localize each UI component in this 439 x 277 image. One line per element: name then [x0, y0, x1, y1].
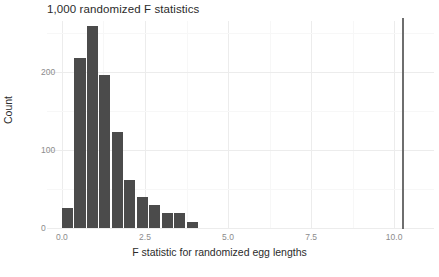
gridline-vertical-major [311, 21, 312, 228]
x-tick-label: 0.0 [56, 232, 68, 242]
gridline-vertical-major [62, 21, 63, 228]
histogram-bar [174, 213, 185, 228]
histogram-bar [187, 222, 198, 228]
plot-area [47, 21, 434, 228]
gridline-horizontal-major [47, 228, 434, 229]
histogram-bar [149, 205, 160, 228]
gridline-vertical-major [394, 21, 395, 228]
histogram-bar [162, 213, 173, 228]
histogram-chart: 1,000 randomized F statistics 0.02.55.07… [0, 0, 439, 277]
gridline-vertical-minor [270, 21, 271, 228]
histogram-bar [87, 26, 98, 228]
histogram-bar [99, 75, 110, 228]
gridline-vertical-major [228, 21, 229, 228]
x-axis-label: F statistic for randomized egg lengths [0, 246, 439, 258]
gridline-vertical-minor [187, 21, 188, 228]
x-tick-label: 10.0 [386, 232, 403, 242]
x-tick-label: 7.5 [305, 232, 317, 242]
histogram-bar [137, 197, 148, 228]
histogram-bar [62, 208, 73, 228]
gridline-horizontal-minor [47, 33, 434, 34]
observed-statistic-line [402, 18, 404, 229]
x-tick-label: 5.0 [222, 232, 234, 242]
chart-title: 1,000 randomized F statistics [47, 3, 199, 15]
gridline-vertical-minor [353, 21, 354, 228]
y-axis-label: Count [2, 96, 14, 124]
gridline-horizontal-major [47, 72, 434, 73]
histogram-bar [74, 58, 85, 228]
x-tick-label: 2.5 [139, 232, 151, 242]
histogram-bar [112, 132, 123, 228]
histogram-bar [124, 180, 135, 228]
